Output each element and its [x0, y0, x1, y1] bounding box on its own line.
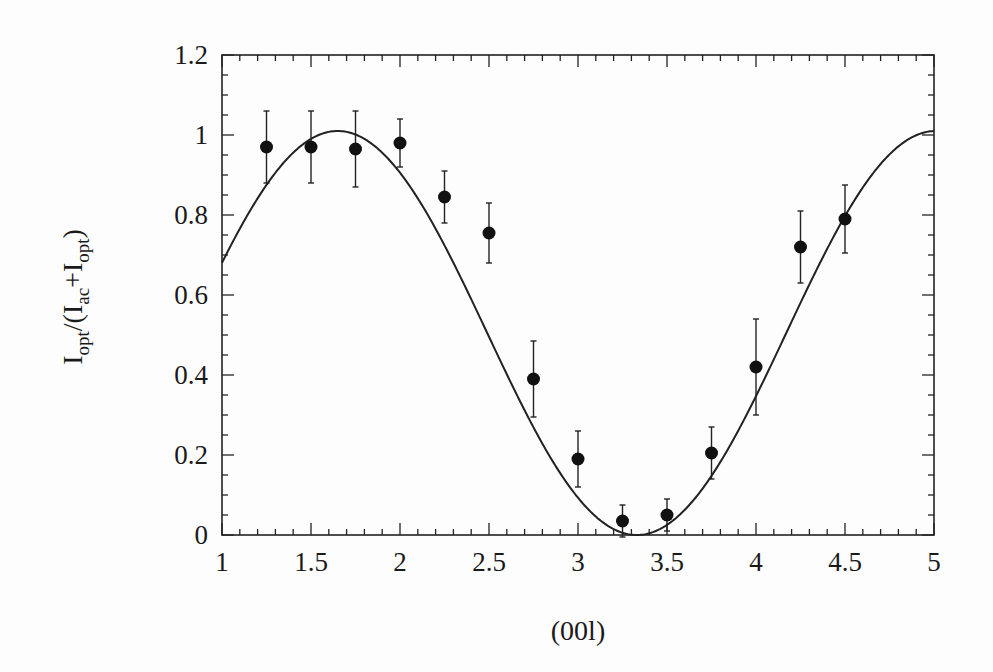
- x-tick-label: 1.5: [294, 547, 328, 577]
- chart: 00.20.40.60.811.2 11.522.533.544.55 (00l…: [0, 0, 993, 672]
- y-tick-label: 1.2: [174, 40, 208, 70]
- data-point: [527, 341, 540, 417]
- data-point: [572, 431, 585, 487]
- y-tick-label: 0.4: [174, 360, 208, 390]
- data-points: [260, 111, 852, 537]
- data-point: [705, 427, 718, 479]
- y-axis-title: Iopt/(Iac+Iopt): [57, 229, 93, 365]
- x-tick-label: 4.5: [828, 547, 862, 577]
- data-point: [260, 111, 273, 183]
- data-point: [305, 111, 318, 183]
- data-point: [750, 319, 763, 415]
- x-tick-label: 3: [571, 547, 585, 577]
- y-tick-label: 0: [195, 520, 209, 550]
- data-point: [616, 505, 629, 537]
- x-tick-labels: 11.522.533.544.55: [215, 547, 941, 577]
- y-tick-label: 0.2: [174, 440, 208, 470]
- svg-text:Iopt/(Iac+Iopt): Iopt/(Iac+Iopt): [57, 229, 93, 365]
- data-point: [661, 499, 674, 531]
- data-point: [394, 119, 407, 167]
- data-point: [794, 211, 807, 283]
- y-tick-labels: 00.20.40.60.811.2: [174, 40, 208, 550]
- x-tick-label: 1: [215, 547, 229, 577]
- x-tick-label: 4: [749, 547, 763, 577]
- x-tick-label: 5: [927, 547, 941, 577]
- x-axis-title: (00l): [551, 615, 605, 646]
- x-tick-label: 3.5: [650, 547, 684, 577]
- x-tick-label: 2: [393, 547, 407, 577]
- data-point: [839, 185, 852, 253]
- data-point: [349, 111, 362, 187]
- y-tick-label: 1: [195, 120, 209, 150]
- y-tick-label: 0.6: [174, 280, 208, 310]
- x-tick-label: 2.5: [472, 547, 506, 577]
- data-point: [438, 171, 451, 223]
- data-point: [483, 203, 496, 263]
- y-tick-label: 0.8: [174, 200, 208, 230]
